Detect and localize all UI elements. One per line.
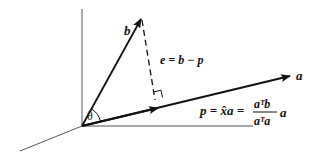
formula-suffix: a bbox=[280, 105, 287, 120]
formula-numerator: aᵀb bbox=[254, 97, 270, 111]
right-angle-marker bbox=[154, 90, 163, 97]
depth-axis bbox=[20, 126, 82, 151]
projection-diagram: b a θ e = b − p p = x̂a = aᵀb aᵀa a bbox=[0, 0, 309, 156]
formula-lhs: p = x̂a = bbox=[199, 103, 244, 118]
label-a: a bbox=[296, 68, 303, 83]
label-theta: θ bbox=[87, 109, 93, 123]
label-error: e = b − p bbox=[160, 53, 203, 67]
error-vector-dashed bbox=[142, 20, 155, 100]
label-b: b bbox=[124, 23, 131, 38]
formula-denominator: aᵀa bbox=[254, 114, 270, 128]
angle-arc bbox=[92, 109, 101, 122]
